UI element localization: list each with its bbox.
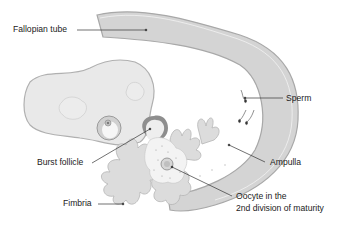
label-ampulla: Ampulla <box>270 157 301 168</box>
sperm-cells <box>239 90 255 125</box>
oocyte <box>161 158 173 170</box>
label-oocyte-line2: 2nd division of maturity <box>236 203 324 214</box>
label-burst-follicle: Burst follicle <box>37 157 83 168</box>
burst-follicle <box>142 116 168 141</box>
label-fallopian-tube: Fallopian tube <box>13 24 67 35</box>
label-fimbria: Fimbria <box>63 198 92 209</box>
label-sperm: Sperm <box>286 93 311 104</box>
label-oocyte-line1: Oocyte in the <box>236 191 287 202</box>
developing-follicle <box>97 116 121 140</box>
ovary <box>24 60 154 145</box>
